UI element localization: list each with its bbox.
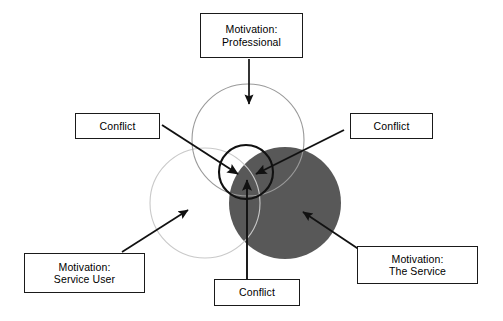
label-box-conflict-right[interactable]: Conflict xyxy=(350,113,433,139)
label-box-motivation-service-user[interactable]: Motivation: Service User xyxy=(24,253,145,293)
label-box-conflict-bottom[interactable]: Conflict xyxy=(214,279,300,306)
label-line-2: Service User xyxy=(54,273,115,286)
label-line-1: Conflict xyxy=(100,120,136,133)
label-line-1: Motivation: xyxy=(226,23,278,36)
label-line-1: Conflict xyxy=(239,286,275,299)
label-line-1: Conflict xyxy=(374,120,410,133)
label-line-2: The Service xyxy=(389,265,446,278)
label-box-motivation-the-service[interactable]: Motivation: The Service xyxy=(357,246,478,284)
label-line-2: Professional xyxy=(222,36,281,49)
arrow-conflict-left-to-center xyxy=(162,125,238,174)
arrow-service-user-to-circle xyxy=(122,210,188,252)
label-line-1: Motivation: xyxy=(392,253,444,266)
label-box-motivation-professional[interactable]: Motivation: Professional xyxy=(200,13,303,58)
the-service-circle xyxy=(229,147,341,259)
label-box-conflict-left[interactable]: Conflict xyxy=(75,113,160,139)
label-line-1: Motivation: xyxy=(59,261,111,274)
diagram-canvas: Motivation: Professional Conflict Confli… xyxy=(0,0,503,321)
